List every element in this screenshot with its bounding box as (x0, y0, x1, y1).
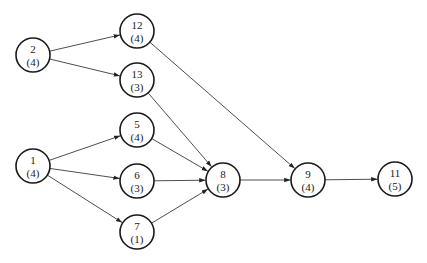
node-13: 13(3) (120, 63, 154, 97)
edge-12-to-9 (150, 42, 295, 168)
node-5: 5(4) (120, 113, 154, 147)
edge-2-to-12 (50, 35, 120, 51)
node-1: 1(4) (16, 149, 50, 183)
node-2: 2(4) (16, 38, 50, 72)
node-7: 7(1) (120, 215, 154, 249)
node-duration: (4) (131, 131, 144, 144)
edges-layer (47, 35, 377, 223)
node-duration: (3) (131, 182, 144, 195)
node-duration: (4) (27, 56, 40, 69)
node-duration: (1) (131, 233, 144, 246)
node-label: 11 (390, 167, 401, 179)
node-duration: (5) (389, 180, 402, 193)
node-label: 1 (30, 154, 36, 166)
node-9: 9(4) (291, 163, 325, 197)
node-8: 8(3) (206, 163, 240, 197)
node-label: 5 (134, 118, 140, 130)
edge-6-to-8 (154, 180, 206, 181)
node-label: 12 (132, 19, 143, 31)
node-duration: (4) (131, 32, 144, 45)
node-duration: (3) (217, 181, 230, 194)
node-label: 2 (30, 43, 36, 55)
nodes-layer: 2(4)12(4)13(3)1(4)5(4)6(3)7(1)8(3)9(4)11… (16, 14, 412, 249)
edge-1-to-6 (50, 168, 120, 178)
node-label: 8 (220, 168, 226, 180)
node-label: 13 (132, 68, 144, 80)
node-label: 9 (305, 168, 311, 180)
edge-2-to-13 (50, 59, 120, 76)
edge-1-to-5 (49, 136, 120, 161)
edge-9-to-11 (325, 179, 378, 180)
node-12: 12(4) (120, 14, 154, 48)
edge-5-to-8 (152, 139, 208, 172)
node-label: 7 (134, 220, 140, 232)
node-duration: (4) (27, 167, 40, 180)
node-6: 6(3) (120, 164, 154, 198)
activity-network-diagram: 2(4)12(4)13(3)1(4)5(4)6(3)7(1)8(3)9(4)11… (0, 0, 427, 263)
node-duration: (4) (302, 181, 315, 194)
edge-13-to-8 (148, 93, 212, 167)
edge-7-to-8 (152, 189, 208, 223)
node-label: 6 (134, 169, 140, 181)
node-11: 11(5) (378, 162, 412, 196)
node-duration: (3) (131, 81, 144, 94)
edge-1-to-7 (47, 175, 122, 223)
